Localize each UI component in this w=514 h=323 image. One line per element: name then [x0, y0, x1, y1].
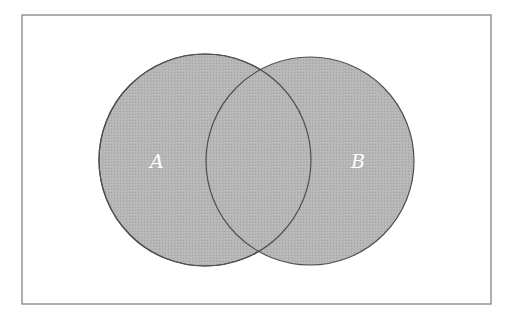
set-b-label: B	[350, 150, 365, 172]
set-b-circle	[206, 57, 414, 265]
venn-diagram: A B	[0, 0, 514, 323]
set-a-label: A	[148, 150, 164, 172]
